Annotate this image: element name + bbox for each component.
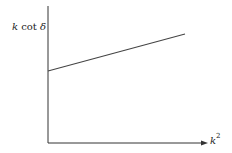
- x-axis-label: k2: [210, 134, 221, 146]
- ylabel-cot: cot: [21, 21, 37, 32]
- y-axis-label: k cot δ: [12, 21, 46, 32]
- data-line: [48, 34, 185, 71]
- xlabel-exponent: 2: [216, 132, 220, 140]
- ylabel-delta: δ: [40, 21, 46, 32]
- chart: k cot δ k2: [0, 0, 232, 153]
- x-axis-arrow-icon: [201, 141, 208, 146]
- ylabel-k: k: [12, 21, 18, 32]
